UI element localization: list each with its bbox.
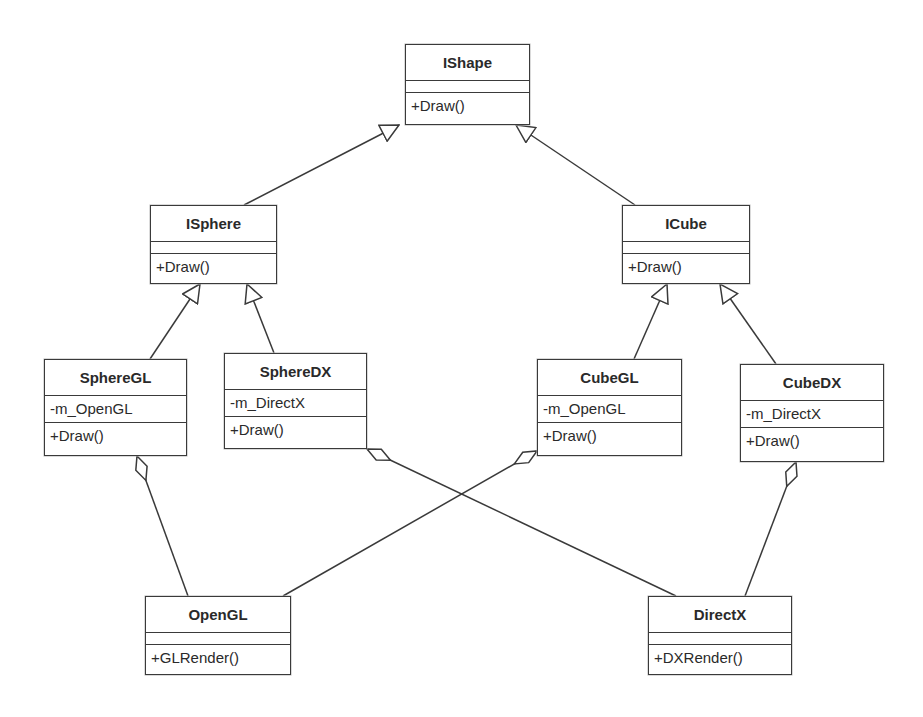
- agg-cubegl-opengl: [283, 451, 537, 596]
- class-name: CubeGL: [538, 360, 681, 396]
- operation: +Draw(): [411, 95, 524, 117]
- class-name: CubeDX: [741, 365, 883, 401]
- class-cubegl[interactable]: CubeGL -m_OpenGL +Draw(): [537, 359, 682, 456]
- class-name: DirectX: [649, 597, 791, 633]
- class-spheregl[interactable]: SphereGL -m_OpenGL +Draw(): [44, 359, 187, 456]
- attribute: -m_OpenGL: [50, 398, 181, 420]
- class-opengl[interactable]: OpenGL +GLRender(): [145, 596, 291, 675]
- operation: +Draw(): [746, 430, 878, 452]
- operations-section: +Draw(): [45, 423, 186, 449]
- class-spheredx[interactable]: SphereDX -m_DirectX +Draw(): [224, 353, 367, 449]
- operation: +Draw(): [628, 256, 744, 278]
- attribute: -m_DirectX: [746, 403, 878, 425]
- attributes-section: -m_OpenGL: [45, 396, 186, 423]
- attributes-section: [406, 81, 529, 93]
- operations-section: +Draw(): [623, 254, 749, 280]
- class-directx[interactable]: DirectX +DXRender(): [648, 596, 792, 675]
- operations-section: +Draw(): [406, 93, 529, 119]
- attributes-section: [649, 633, 791, 645]
- operation: +GLRender(): [151, 647, 285, 669]
- attributes-section: [146, 633, 290, 645]
- gen-spheredx-to-isphere: [247, 284, 274, 353]
- class-name: ISphere: [151, 206, 276, 242]
- gen-icube-to-ishape: [516, 125, 635, 205]
- class-name: SphereGL: [45, 360, 186, 396]
- agg-cubedx-directx: [745, 462, 796, 596]
- class-name: SphereDX: [225, 354, 366, 390]
- operation: +DXRender(): [654, 647, 786, 669]
- operations-section: +DXRender(): [649, 645, 791, 671]
- operation: +Draw(): [50, 425, 181, 447]
- uml-class-diagram: IShape +Draw() ISphere +Draw() ICube +Dr…: [0, 0, 923, 717]
- attributes-section: [623, 242, 749, 254]
- operations-section: +Draw(): [741, 428, 883, 454]
- attributes-section: -m_OpenGL: [538, 396, 681, 423]
- operation: +Draw(): [230, 419, 361, 441]
- operations-section: +Draw(): [151, 254, 276, 280]
- operations-section: +Draw(): [225, 417, 366, 443]
- operation: +Draw(): [543, 425, 676, 447]
- agg-spheregl-opengl: [137, 456, 188, 596]
- attributes-section: [151, 242, 276, 254]
- class-name: OpenGL: [146, 597, 290, 633]
- gen-isphere-to-ishape: [244, 125, 399, 205]
- operation: +Draw(): [156, 256, 271, 278]
- operations-section: +Draw(): [538, 423, 681, 449]
- class-name: IShape: [406, 45, 529, 81]
- agg-spheredx-directx: [367, 449, 676, 596]
- gen-cubedx-to-icube: [720, 284, 776, 364]
- class-isphere[interactable]: ISphere +Draw(): [150, 205, 277, 284]
- class-ishape[interactable]: IShape +Draw(): [405, 44, 530, 125]
- operations-section: +GLRender(): [146, 645, 290, 671]
- attribute: -m_OpenGL: [543, 398, 676, 420]
- gen-cubegl-to-icube: [634, 284, 667, 359]
- class-icube[interactable]: ICube +Draw(): [622, 205, 750, 284]
- gen-spheregl-to-isphere: [150, 284, 200, 359]
- class-cubedx[interactable]: CubeDX -m_DirectX +Draw(): [740, 364, 884, 462]
- attributes-section: -m_DirectX: [225, 390, 366, 417]
- class-name: ICube: [623, 206, 749, 242]
- attributes-section: -m_DirectX: [741, 401, 883, 428]
- attribute: -m_DirectX: [230, 392, 361, 414]
